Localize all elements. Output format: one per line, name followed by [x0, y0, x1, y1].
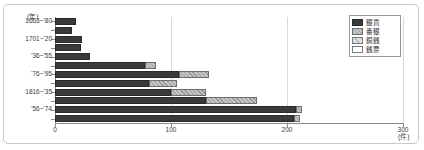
- bar-segment[interactable]: [55, 27, 72, 34]
- bar-segment[interactable]: [55, 18, 76, 25]
- bar-row[interactable]: [55, 71, 209, 78]
- y-axis-tick: [51, 66, 55, 67]
- y-axis-category-label: '76~'95: [6, 70, 52, 77]
- bar-row[interactable]: [55, 115, 300, 122]
- legend-label: 銅銭: [366, 37, 380, 45]
- legend-item[interactable]: 銀貨: [352, 18, 398, 27]
- chart-figure: (年) 0100200300 1663~'801701~'20'36~'55'7…: [0, 0, 424, 150]
- legend-item[interactable]: 銅銭: [352, 36, 398, 45]
- y-axis-tick: [51, 119, 55, 120]
- x-axis-tick-label: 100: [166, 126, 177, 133]
- legend-label: 銀貨: [366, 19, 380, 27]
- bar-row[interactable]: [55, 18, 76, 25]
- x-axis-unit-label: (件): [398, 131, 409, 141]
- legend-swatch: [352, 37, 363, 44]
- bar-segment[interactable]: [55, 36, 82, 43]
- legend: 銀貨番銀銅銭銭票: [349, 15, 401, 57]
- bar-row[interactable]: [55, 89, 206, 96]
- bar-segment[interactable]: [171, 89, 206, 96]
- bar-segment[interactable]: [55, 53, 90, 60]
- legend-label: 番銀: [366, 28, 380, 36]
- bar-segment[interactable]: [55, 71, 179, 78]
- gridline: [403, 17, 404, 123]
- bar-segment[interactable]: [55, 106, 296, 113]
- legend-swatch: [352, 28, 363, 35]
- y-axis-tick: [51, 101, 55, 102]
- bar-segment[interactable]: [145, 62, 155, 69]
- y-axis-tick: [51, 83, 55, 84]
- bar-segment[interactable]: [55, 115, 294, 122]
- legend-item[interactable]: 銭票: [352, 45, 398, 54]
- legend-label: 銭票: [366, 46, 380, 54]
- bar-row[interactable]: [55, 36, 82, 43]
- bar-segment[interactable]: [55, 89, 171, 96]
- bar-segment[interactable]: [206, 97, 257, 104]
- y-axis-category-label: 1701~'20: [6, 35, 52, 42]
- bar-row[interactable]: [55, 62, 156, 69]
- bar-row[interactable]: [55, 27, 72, 34]
- y-axis-tick: [51, 30, 55, 31]
- bar-row[interactable]: [55, 97, 257, 104]
- x-axis-tick-label: 0: [53, 126, 57, 133]
- bar-segment[interactable]: [149, 80, 177, 87]
- legend-item[interactable]: 番銀: [352, 27, 398, 36]
- bar-segment[interactable]: [296, 106, 302, 113]
- y-axis-category-label: '36~'55: [6, 52, 52, 59]
- y-axis-category-label: '56~'74: [6, 105, 52, 112]
- legend-swatch: [352, 19, 363, 26]
- bar-row[interactable]: [55, 44, 81, 51]
- legend-swatch: [352, 46, 363, 53]
- bar-segment[interactable]: [55, 62, 145, 69]
- bar-segment[interactable]: [179, 71, 209, 78]
- bar-segment[interactable]: [294, 115, 300, 122]
- y-axis-tick: [51, 48, 55, 49]
- bar-segment[interactable]: [55, 80, 149, 87]
- x-axis-tick-label: 200: [282, 126, 293, 133]
- y-axis-category-label: 1663~'80: [6, 17, 52, 24]
- bar-segment[interactable]: [55, 97, 206, 104]
- bar-segment[interactable]: [55, 44, 81, 51]
- y-axis-category-label: 1816~'35: [6, 88, 52, 95]
- x-axis-line: [55, 123, 403, 124]
- bar-row[interactable]: [55, 80, 177, 87]
- bar-row[interactable]: [55, 106, 302, 113]
- bar-row[interactable]: [55, 53, 90, 60]
